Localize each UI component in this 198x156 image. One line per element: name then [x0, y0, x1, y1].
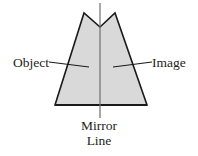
object-label: Object	[13, 55, 49, 70]
mirror-label-word-2: Line	[0, 133, 198, 148]
mirror-line-label: Mirror Line	[0, 118, 198, 148]
reflected-polygon	[55, 13, 147, 105]
mirror-label-word-1: Mirror	[0, 118, 198, 133]
image-label: Image	[152, 55, 186, 70]
mirror-line-figure: Object Image Mirror Line	[0, 0, 198, 156]
